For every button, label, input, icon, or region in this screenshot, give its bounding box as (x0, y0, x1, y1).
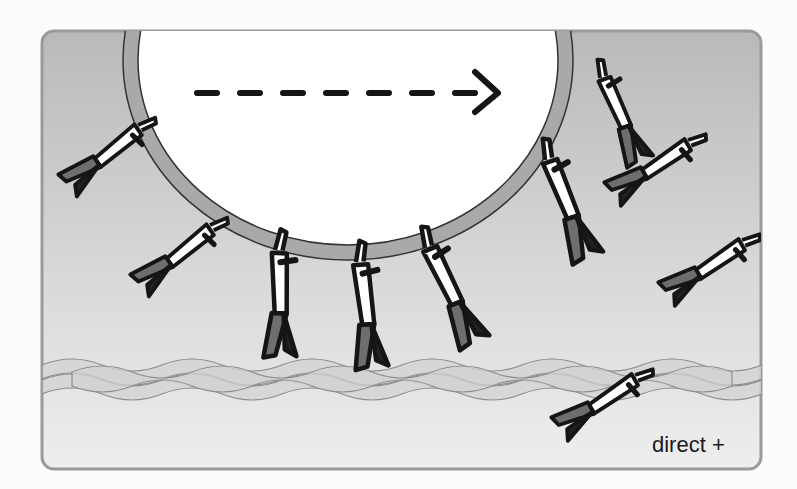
direction-label: direct + (652, 432, 725, 458)
diagram-canvas (0, 0, 797, 489)
